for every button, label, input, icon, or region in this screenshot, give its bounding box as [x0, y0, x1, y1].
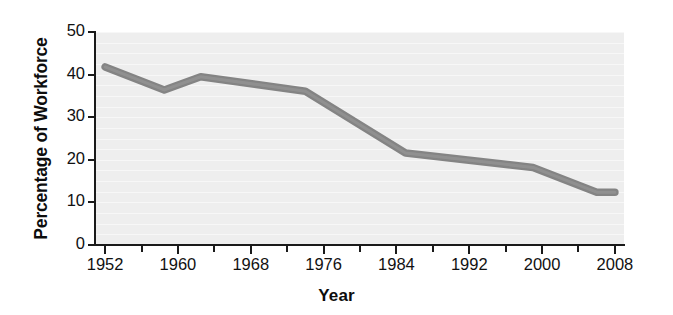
gridline-horizontal: [96, 128, 624, 129]
x-axis-tick-minor: [577, 246, 579, 252]
y-axis-tick-label: 20: [25, 149, 85, 168]
x-axis-tick-major: [177, 246, 179, 254]
x-axis-tick-major: [323, 246, 325, 254]
x-axis-tick-label: 1960: [143, 255, 213, 274]
gridline-horizontal: [96, 107, 624, 108]
gridline-horizontal: [96, 53, 624, 54]
x-axis-tick-major: [250, 246, 252, 254]
gridline-horizontal: [96, 149, 624, 150]
x-axis-tick-label: 1968: [216, 255, 286, 274]
x-axis-tick-minor: [141, 246, 143, 252]
gridline-horizontal: [96, 43, 624, 44]
x-axis-tick-label: 2008: [580, 255, 650, 274]
y-axis-tick: [88, 201, 95, 203]
y-axis-tick: [88, 159, 95, 161]
x-axis-tick-minor: [359, 246, 361, 252]
gridline-horizontal: [96, 32, 624, 33]
x-axis-tick-major: [468, 246, 470, 254]
chart-figure: Percentage of Workforce Year 01020304050…: [0, 0, 673, 315]
y-axis-tick: [88, 116, 95, 118]
y-axis-tick-label: 40: [25, 64, 85, 83]
x-axis-tick-label: 1992: [434, 255, 504, 274]
y-axis-tick-label: 10: [25, 191, 85, 210]
gridline-horizontal: [96, 234, 624, 235]
y-axis-title: Percentage of Workforce: [31, 14, 52, 264]
gridline-horizontal: [96, 213, 624, 214]
gridline-horizontal: [96, 202, 624, 203]
gridline-horizontal: [96, 96, 624, 97]
x-axis-tick-label: 2000: [507, 255, 577, 274]
y-axis-tick: [88, 31, 95, 33]
gridline-horizontal: [96, 64, 624, 65]
x-axis-tick-label: 1976: [289, 255, 359, 274]
y-axis-line: [94, 31, 96, 246]
x-axis-tick-major: [104, 246, 106, 254]
x-axis-tick-minor: [432, 246, 434, 252]
x-axis-tick-major: [541, 246, 543, 254]
gridline-horizontal: [96, 160, 624, 161]
x-axis-title: Year: [0, 286, 673, 306]
x-axis-tick-label: 1984: [361, 255, 431, 274]
y-axis-tick-label: 50: [25, 21, 85, 40]
gridline-horizontal: [96, 192, 624, 193]
y-axis-tick-label: 0: [25, 234, 85, 253]
x-axis-tick-minor: [286, 246, 288, 252]
gridline-horizontal: [96, 181, 624, 182]
gridline-horizontal: [96, 224, 624, 225]
gridline-horizontal: [96, 170, 624, 171]
y-axis-tick: [88, 244, 95, 246]
plot-area: [96, 32, 624, 245]
gridline-horizontal: [96, 85, 624, 86]
x-axis-tick-minor: [505, 246, 507, 252]
x-axis-tick-label: 1952: [70, 255, 140, 274]
y-axis-tick: [88, 74, 95, 76]
gridline-horizontal: [96, 117, 624, 118]
x-axis-tick-minor: [213, 246, 215, 252]
y-axis-tick-label: 30: [25, 106, 85, 125]
x-axis-tick-major: [614, 246, 616, 254]
x-axis-tick-major: [395, 246, 397, 254]
gridline-horizontal: [96, 75, 624, 76]
gridline-horizontal: [96, 139, 624, 140]
